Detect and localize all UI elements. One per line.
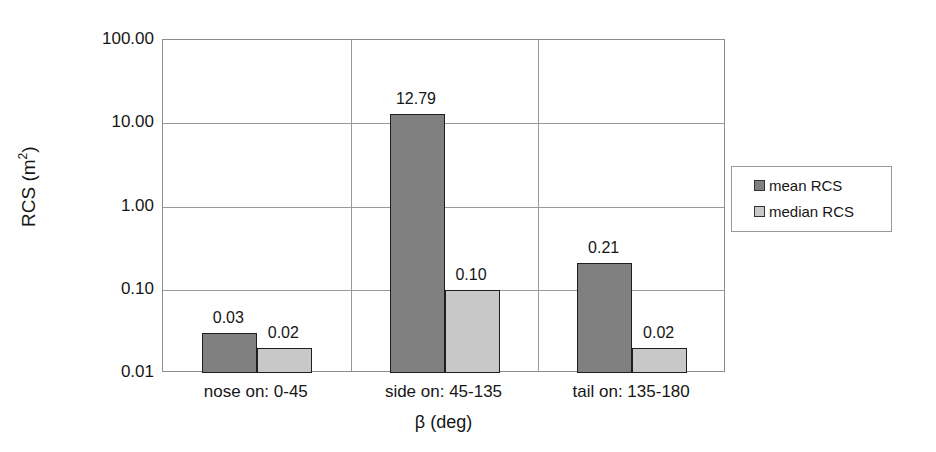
- bar-median[interactable]: [632, 348, 687, 373]
- bar-mean[interactable]: [390, 114, 445, 373]
- bar-value-label: 12.79: [374, 91, 459, 107]
- category-separator: [351, 40, 352, 371]
- y-axis-tick-label: 10.00: [66, 113, 154, 130]
- legend-entry-mean-rcs[interactable]: mean RCS: [754, 178, 842, 193]
- y-axis-title-exponent: 2: [16, 153, 30, 160]
- bar-median[interactable]: [257, 348, 312, 373]
- y-axis-tick-labels: 100.0010.001.000.100.01: [58, 0, 154, 452]
- bar-value-label: 0.03: [186, 310, 271, 326]
- y-axis-title-base: RCS (m: [18, 159, 39, 227]
- y-axis-tick-label: 1.00: [66, 197, 154, 214]
- x-axis-title: β (deg): [162, 412, 725, 433]
- y-axis-tick-label: 0.01: [66, 363, 154, 380]
- bar-value-label: 0.02: [616, 325, 701, 341]
- x-axis-category-label: tail on: 135-180: [537, 382, 725, 402]
- rcs-bar-chart: RCS (m2) 100.0010.001.000.100.01 nose on…: [0, 0, 936, 452]
- bar-value-label: 0.21: [561, 240, 646, 256]
- legend-entry-median-rcs[interactable]: median RCS: [754, 204, 854, 219]
- y-axis-title-tail: ): [18, 146, 39, 152]
- bar-value-label: 0.10: [429, 267, 514, 283]
- legend-swatch-median-rcs: [754, 206, 765, 217]
- x-axis-category-label: nose on: 0-45: [162, 382, 350, 402]
- legend-swatch-mean-rcs: [754, 180, 765, 191]
- legend: mean RCS median RCS: [731, 166, 892, 232]
- category-separator: [538, 40, 539, 371]
- bar-median[interactable]: [445, 290, 500, 373]
- y-axis-title: RCS (m2): [16, 97, 39, 277]
- y-axis-tick-label: 0.10: [66, 280, 154, 297]
- bar-mean[interactable]: [577, 263, 632, 373]
- legend-label-mean-rcs: mean RCS: [769, 178, 842, 193]
- y-axis-tick-label: 100.00: [66, 30, 154, 47]
- legend-label-median-rcs: median RCS: [769, 204, 854, 219]
- x-axis-category-label: side on: 45-135: [350, 382, 538, 402]
- bar-value-label: 0.02: [241, 325, 326, 341]
